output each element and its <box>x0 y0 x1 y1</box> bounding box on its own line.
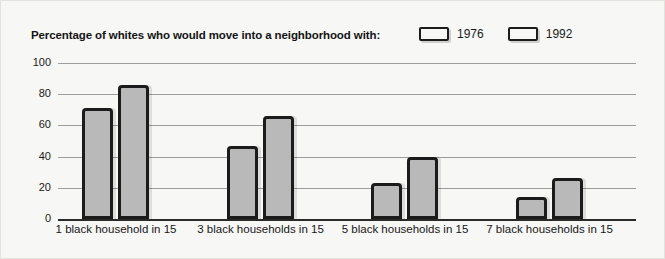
bar-group <box>371 63 441 219</box>
bar[interactable] <box>263 116 294 219</box>
legend-item-1992[interactable]: 1992 <box>508 27 573 41</box>
bar[interactable] <box>516 197 547 219</box>
legend-swatch-1992 <box>508 27 538 41</box>
bar-group <box>82 63 152 219</box>
chart-figure: Percentage of whites who would move into… <box>0 0 665 259</box>
bar-group <box>516 63 586 219</box>
x-axis-labels: 1 black household in 153 black household… <box>58 223 636 243</box>
y-axis: 020406080100 <box>1 63 51 219</box>
y-tick-label: 40 <box>5 150 51 162</box>
bar[interactable] <box>227 146 258 219</box>
legend-label-1976: 1976 <box>457 27 484 41</box>
bar[interactable] <box>407 157 438 219</box>
legend-item-1976[interactable]: 1976 <box>419 27 484 41</box>
x-tick-label: 1 black household in 15 <box>56 223 177 235</box>
x-tick-label: 3 black households in 15 <box>197 223 324 235</box>
chart-legend: 1976 1992 <box>419 27 572 41</box>
y-tick-label: 100 <box>5 56 51 68</box>
x-tick-label: 7 black households in 15 <box>486 223 613 235</box>
plot-area <box>58 63 636 219</box>
bar[interactable] <box>552 178 583 219</box>
legend-label-1992: 1992 <box>546 27 573 41</box>
bar[interactable] <box>82 108 113 219</box>
axis-baseline <box>58 219 636 221</box>
x-tick-label: 5 black households in 15 <box>342 223 469 235</box>
chart-title: Percentage of whites who would move into… <box>31 29 380 41</box>
bar[interactable] <box>371 183 402 219</box>
y-tick-label: 80 <box>5 87 51 99</box>
legend-swatch-1976 <box>419 27 449 41</box>
bar-group <box>227 63 297 219</box>
y-tick-label: 60 <box>5 118 51 130</box>
y-tick-label: 0 <box>5 212 51 224</box>
bar[interactable] <box>118 85 149 219</box>
y-tick-label: 20 <box>5 181 51 193</box>
